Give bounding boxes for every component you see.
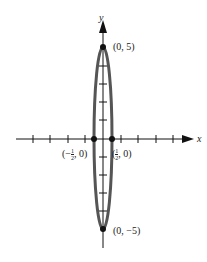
left-point-label: (−12, 0): [62, 148, 87, 161]
point-right: [109, 136, 115, 142]
x-axis-arrow-icon: [182, 135, 194, 143]
point-bottom: [100, 226, 106, 232]
y-axis-label: y: [99, 13, 103, 23]
right-point-label: (12, 0): [112, 148, 132, 161]
top-point-label: (0, 5): [113, 42, 135, 52]
ellipse-plot: [0, 0, 207, 262]
x-axis-label: x: [197, 134, 201, 144]
bottom-point-label: (0, −5): [113, 226, 140, 236]
point-top: [100, 44, 106, 50]
point-left: [91, 136, 97, 142]
